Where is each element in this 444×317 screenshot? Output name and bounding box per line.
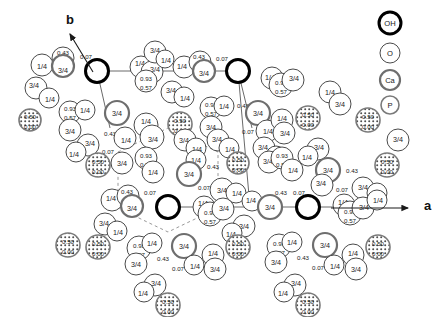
- atom-height-label: 1/4: [80, 106, 90, 115]
- atom-ca: 3/4: [258, 195, 282, 219]
- atom-o: 1/4: [324, 255, 344, 275]
- legend-label: O: [387, 49, 393, 58]
- atom-height-label: 0.43: [297, 254, 310, 261]
- atom-height-label: 0.07: [144, 189, 157, 196]
- atom-height-label: 0.50: [232, 156, 245, 163]
- atom-height-label: 0.50: [92, 240, 105, 247]
- atom-p: 0.500.00: [156, 293, 180, 317]
- atom-height-label: 0.43: [207, 163, 220, 170]
- atom-height-label: 1/4: [161, 56, 171, 65]
- atom-o: 1/4: [174, 87, 194, 107]
- atom-height-label: 0.07: [198, 184, 211, 191]
- atom-height-label: 0.50: [92, 158, 105, 165]
- atom-height-label: 0.00: [232, 250, 245, 257]
- atom-o: 3/4: [125, 253, 147, 275]
- atom-o: 3/4: [282, 69, 304, 91]
- atom-o: 1/4: [66, 142, 86, 162]
- atom-height-label: 0.50: [302, 111, 315, 118]
- atom-height-label: 1/4: [113, 228, 123, 237]
- oh-column-circle: [297, 196, 320, 219]
- atom-height-label: 1/4: [278, 289, 288, 298]
- atom-height-label: 3/4: [117, 159, 127, 168]
- atom-o: 3/4: [345, 258, 367, 280]
- atom-height-label: 0.93: [276, 152, 289, 159]
- atom-height-label: 3/4: [85, 139, 95, 148]
- atom-o: 1/4: [142, 161, 164, 183]
- atom-height-label: 0.50: [162, 298, 175, 305]
- atom-height-label: 3/4: [258, 143, 268, 152]
- atom-height-label: 0.57: [344, 217, 357, 224]
- atom-height-label: 0.07: [293, 189, 306, 196]
- atom-height-label: 3/4: [210, 265, 220, 274]
- atom-height-label: 3/4: [280, 129, 290, 138]
- atom-height-label: 3/4: [351, 265, 361, 274]
- atom-height-label: 0.00: [232, 166, 245, 173]
- atom-o: 1/4: [156, 50, 174, 68]
- atom-height-label: 0.00: [92, 250, 105, 257]
- atom-height-label: 0.50: [62, 238, 75, 245]
- atom-height-label: 3/4: [323, 166, 333, 175]
- atom-label: 0.43: [207, 163, 220, 170]
- legend-item-p: P: [381, 96, 399, 114]
- atom-height-label: 1/4: [106, 194, 116, 203]
- atom-o: 3/4: [329, 93, 351, 115]
- atom-height-label: 3/4: [58, 66, 68, 75]
- atom-height-label: 0.00: [372, 250, 385, 257]
- atom-height-label: 0.00: [381, 168, 394, 175]
- legend-item-o: O: [380, 43, 400, 63]
- atom-group: 1/40.433/40.073/41/40.500.000.930.571/43…: [19, 41, 409, 317]
- atom-o: 1/4: [31, 54, 53, 76]
- atom-ca: 3/4: [105, 101, 129, 125]
- atom-height-label: 0.00: [162, 308, 175, 315]
- atom-height-label: 1/4: [288, 166, 298, 175]
- legend-item-ca: Ca: [380, 70, 400, 90]
- legend-group: OHOCaP: [379, 12, 401, 114]
- atom-height-label: 0.50: [302, 298, 315, 305]
- atom-label: 0.43: [157, 255, 170, 262]
- atom-label: 0.07: [172, 265, 185, 272]
- crystal-structure-figure: 1/40.433/40.073/41/40.500.000.930.571/43…: [0, 0, 444, 317]
- atom-height-label: 1/4: [121, 136, 131, 145]
- oh-column-circle: [86, 60, 109, 83]
- atom-label: 0.43: [297, 254, 310, 261]
- atom-ca: 3/4: [172, 234, 196, 258]
- atom-height-label: 0.50: [381, 158, 394, 165]
- atom-height-label: 1/4: [45, 95, 55, 104]
- atom-height-label: 0.07: [336, 186, 349, 193]
- atom-height-label: 1/4: [232, 189, 242, 198]
- atom-height-label: 1/4: [180, 94, 190, 103]
- atom-height-label: 3/4: [199, 69, 209, 78]
- atom-height-label: 1/4: [302, 153, 312, 162]
- atom-o: 1/4: [281, 159, 303, 181]
- atom-height-label: 1/4: [141, 117, 151, 126]
- atom-height-label: 3/4: [335, 100, 345, 109]
- atom-label: 0.07: [102, 148, 115, 155]
- atom-p: 0.500.00: [296, 106, 320, 130]
- atom-label: 0.07: [198, 184, 211, 191]
- legend-item-oh: OH: [379, 12, 401, 34]
- atom-o: 3/4: [204, 258, 226, 280]
- atom-o: 1/4: [367, 190, 387, 210]
- atom-height-label: 0.07: [216, 55, 229, 62]
- atom-o: 3/4: [59, 119, 81, 141]
- atom-height-label: 0.00: [362, 123, 375, 130]
- atom-height-label: 3/4: [127, 204, 137, 213]
- atom-height-label: 3/4: [179, 242, 189, 251]
- atom-p: 0.500.00: [366, 235, 390, 259]
- atom-height-label: 0.43: [346, 167, 359, 174]
- axis-label-a: a: [424, 198, 431, 213]
- atom-label: 0.07: [312, 264, 325, 271]
- atom-height-label: 3/4: [29, 81, 39, 90]
- atom-height-label: 0.43: [121, 188, 134, 195]
- legend-label: Ca: [385, 76, 395, 85]
- atom-label: 0.07: [144, 189, 157, 196]
- atom-label: 0.07: [216, 55, 229, 62]
- atom-label: 0.07: [336, 186, 349, 193]
- atom-p: 0.500.00: [19, 109, 41, 131]
- atom-height-label: 0.07: [102, 148, 115, 155]
- atom-height-label: 3/4: [65, 127, 75, 136]
- atom-height-label: 3/4: [358, 183, 368, 192]
- atom-height-label: 1/4: [177, 62, 187, 71]
- atom-o: 1/4: [282, 232, 302, 252]
- atom-o: 1/4: [75, 100, 95, 120]
